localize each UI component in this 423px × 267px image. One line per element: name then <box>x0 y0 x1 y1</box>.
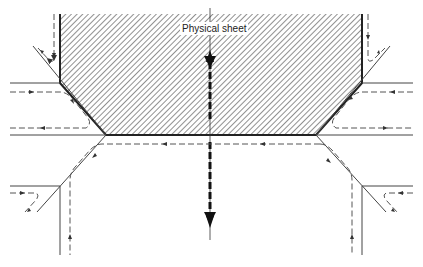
physical-sheet-label: Physical sheet <box>180 22 248 35</box>
diagram-canvas <box>0 0 423 267</box>
